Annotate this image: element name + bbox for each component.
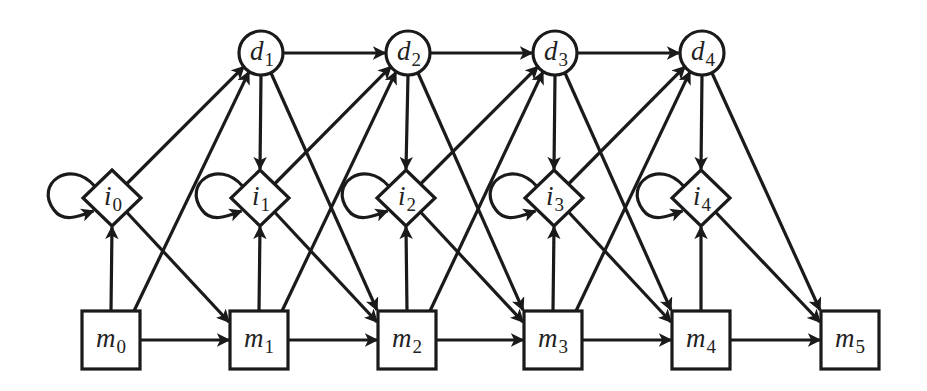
edge-i0-to-m1	[127, 212, 230, 322]
edge-i4-to-m5	[716, 212, 821, 322]
node-m4-square	[672, 311, 730, 369]
edge-d2-to-m3	[418, 73, 523, 310]
node-d1-circle	[239, 31, 283, 75]
edge-i1-to-m2	[275, 212, 378, 322]
edge-i3-to-d4	[569, 67, 685, 184]
edge-i2-to-d3	[421, 67, 538, 184]
node-m1-square	[230, 311, 288, 369]
edge-i2-to-m3	[421, 212, 524, 322]
edge-d3-to-i3	[554, 75, 555, 169]
edge-d1-to-i1	[260, 75, 261, 169]
edge-i0-to-d1	[127, 67, 244, 184]
edge-i3-to-m4	[569, 212, 672, 322]
node-m0-square	[82, 311, 140, 369]
node-d4-circle	[680, 31, 724, 75]
edge-m1-to-i1	[259, 227, 260, 311]
nodes-layer	[82, 31, 879, 369]
edge-d3-to-m4	[565, 73, 671, 310]
edge-m3-to-d4	[576, 72, 690, 311]
edge-d4-to-i4	[701, 75, 702, 169]
edge-m2-to-d3	[430, 72, 543, 311]
node-m2-square	[378, 311, 436, 369]
node-d3-circle	[533, 31, 577, 75]
edge-m3-to-i3	[553, 227, 554, 311]
edge-i1-to-d2	[275, 67, 391, 184]
diagram-canvas	[0, 0, 927, 391]
edge-m2-to-i2	[406, 227, 407, 311]
edge-m0-to-i0	[111, 227, 112, 311]
edge-d1-to-m2	[271, 73, 377, 310]
edge-m1-to-d2	[282, 72, 396, 311]
node-m3-square	[524, 311, 582, 369]
edge-d4-to-m5	[712, 73, 820, 310]
node-m5-square	[821, 311, 879, 369]
node-d2-circle	[386, 31, 430, 75]
edge-m0-to-d1	[134, 72, 249, 311]
edge-d2-to-i2	[406, 75, 408, 169]
